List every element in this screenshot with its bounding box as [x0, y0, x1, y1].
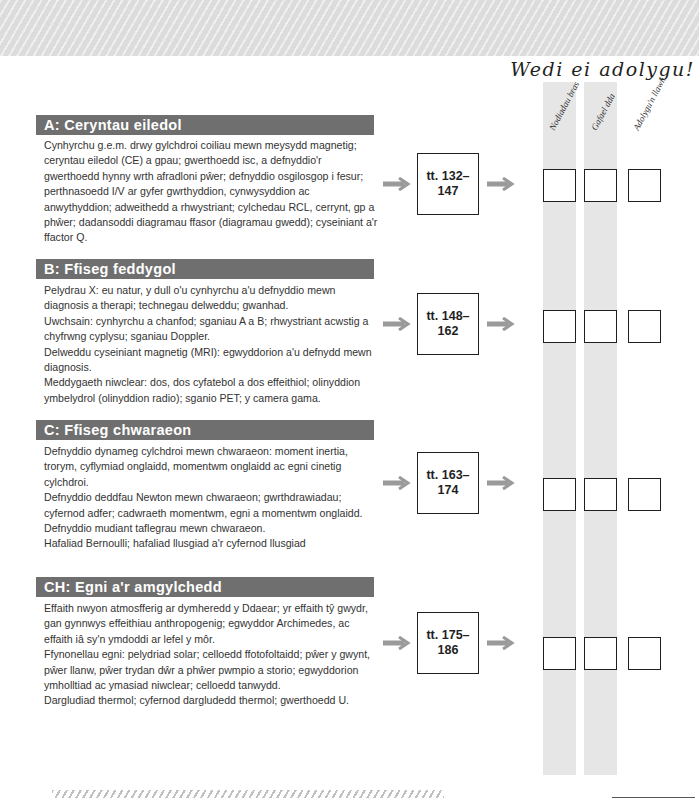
page-range-line1: tt. 148–: [426, 309, 469, 323]
page-range-line2: 186: [438, 643, 459, 657]
section-paragraph: Meddygaeth niwclear: dos, dos cyfatebol …: [44, 375, 379, 406]
arrow-right-icon: [383, 177, 411, 191]
review-title: Wedi ei adolygu!: [510, 58, 695, 80]
section-paragraph: Pelydrau X: eu natur, y dull o'u cynhyrc…: [44, 283, 379, 314]
section-paragraph: Ffynonellau egni: pelydriad solar; cello…: [44, 647, 379, 693]
page-reference-box: tt. 175–186: [417, 612, 479, 674]
page-range-line2: 147: [438, 184, 459, 198]
checkbox-good-grasp[interactable]: [584, 310, 617, 343]
page-range-line1: tt. 132–: [426, 169, 469, 183]
page-reference-box: tt. 163–174: [417, 452, 479, 514]
decorative-hatched-band: [0, 0, 699, 56]
page-range-line1: tt. 163–: [426, 468, 469, 482]
checkbox-fully-revised[interactable]: [628, 310, 661, 343]
arrow-right-icon: [383, 476, 411, 490]
section-paragraph: Delweddu cyseiniant magnetig (MRI): egwy…: [44, 345, 379, 376]
section-body: Defnyddio dynameg cylchdroi mewn chwarae…: [44, 444, 379, 552]
page-reference-box: tt. 132–147: [417, 153, 479, 215]
arrow-right-icon: [487, 476, 515, 490]
checkbox-fully-revised[interactable]: [628, 478, 661, 511]
section-paragraph: Effaith nwyon atmosfferig ar dymheredd y…: [44, 601, 379, 647]
checkbox-good-grasp[interactable]: [584, 637, 617, 670]
page-range-line2: 162: [438, 324, 459, 338]
checkbox-rough-notes[interactable]: [543, 169, 576, 202]
page-range-line2: 174: [438, 483, 459, 497]
section-body: Effaith nwyon atmosfferig ar dymheredd y…: [44, 601, 379, 709]
arrow-right-icon: [487, 636, 515, 650]
arrow-right-icon: [487, 317, 515, 331]
section-paragraph: Cynhyrchu g.e.m. drwy gylchdroi coiliau …: [44, 138, 379, 246]
checkbox-rough-notes[interactable]: [543, 637, 576, 670]
section-paragraph: Defnyddio mudiant taflegrau mewn chwarae…: [44, 521, 379, 536]
page-reference-box: tt. 148–162: [417, 293, 479, 355]
section-body: Pelydrau X: eu natur, y dull o'u cynhyrc…: [44, 283, 379, 406]
section-paragraph: Defnyddio deddfau Newton mewn chwaraeon;…: [44, 490, 379, 521]
checkbox-rough-notes[interactable]: [543, 478, 576, 511]
arrow-right-icon: [383, 636, 411, 650]
section-paragraph: Uwchsain: cynhyrchu a chanfod; sganiau A…: [44, 314, 379, 345]
arrow-right-icon: [383, 317, 411, 331]
checkbox-rough-notes[interactable]: [543, 310, 576, 343]
section-header: A: Ceryntau eiledol: [36, 115, 374, 135]
section-body: Cynhyrchu g.e.m. drwy gylchdroi coiliau …: [44, 138, 379, 246]
checkbox-good-grasp[interactable]: [584, 478, 617, 511]
section-header: CH: Egni a'r amgylchedd: [36, 577, 374, 597]
section-paragraph: Dargludiad thermol; cyfernod dargludedd …: [44, 693, 379, 708]
section-header: C: Ffiseg chwaraeon: [36, 420, 374, 440]
section-header: B: Ffiseg feddygol: [36, 259, 374, 279]
checkbox-good-grasp[interactable]: [584, 169, 617, 202]
decorative-bottom-hatch: [52, 790, 444, 798]
page-range-line1: tt. 175–: [426, 628, 469, 642]
arrow-right-icon: [487, 177, 515, 191]
decorative-bottom-rule: [612, 797, 695, 798]
checkbox-fully-revised[interactable]: [628, 637, 661, 670]
checkbox-fully-revised[interactable]: [628, 169, 661, 202]
section-paragraph: Defnyddio dynameg cylchdroi mewn chwarae…: [44, 444, 379, 490]
section-paragraph: Hafaliad Bernoulli; hafaliad llusgiad a'…: [44, 536, 379, 551]
column-label-fully-revised: Adolygu'n llawn: [631, 76, 667, 132]
